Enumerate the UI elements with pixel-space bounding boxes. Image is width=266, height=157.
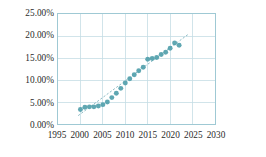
data-point-marker bbox=[114, 91, 119, 96]
y-axis-tick-label: 5.00% bbox=[2, 98, 54, 108]
data-point-marker bbox=[109, 95, 114, 100]
data-point-marker bbox=[150, 56, 155, 61]
data-point-marker bbox=[141, 65, 146, 70]
data-point-marker bbox=[168, 46, 173, 51]
data-point-marker bbox=[154, 55, 159, 60]
y-axis-tick-label: 25.00% bbox=[2, 8, 54, 18]
data-point-marker bbox=[91, 104, 96, 109]
data-point-marker bbox=[87, 104, 92, 109]
data-point-marker bbox=[78, 107, 83, 112]
data-point-marker bbox=[123, 81, 128, 86]
x-axis-tick-labels: 19952000200520102015202020252030 bbox=[0, 129, 266, 145]
data-point-marker bbox=[177, 43, 182, 48]
data-point-marker bbox=[105, 100, 110, 105]
chart-figure: 0.00%5.00%10.00%15.00%20.00%25.00% 19952… bbox=[0, 0, 266, 157]
data-point-marker bbox=[96, 104, 101, 109]
data-point-marker bbox=[145, 57, 150, 62]
data-point-marker bbox=[82, 105, 87, 110]
data-point-marker bbox=[100, 102, 105, 107]
data-point-marker bbox=[136, 68, 141, 73]
y-axis-tick-label: 10.00% bbox=[2, 75, 54, 85]
data-point-marker bbox=[172, 41, 177, 46]
x-axis-tick-label: 2030 bbox=[196, 129, 236, 141]
y-axis-tick-label: 15.00% bbox=[2, 53, 54, 63]
data-series-markers bbox=[58, 14, 215, 124]
plot-area bbox=[57, 13, 216, 125]
data-point-marker bbox=[118, 86, 123, 91]
data-point-marker bbox=[159, 52, 164, 57]
data-point-marker bbox=[163, 50, 168, 55]
data-point-marker bbox=[127, 76, 132, 81]
y-axis-tick-label: 20.00% bbox=[2, 30, 54, 40]
data-point-marker bbox=[132, 72, 137, 77]
